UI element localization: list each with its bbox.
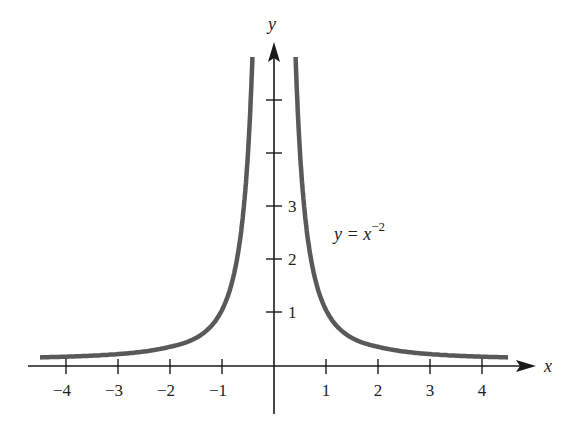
y-tick-label: 2	[288, 250, 297, 269]
x-tick-label: −3	[105, 381, 123, 400]
equation-label: y = x−2	[332, 219, 385, 244]
y-tick-label: 1	[288, 303, 297, 322]
y-axis-label: y	[266, 14, 276, 34]
x-axis-label: x	[543, 356, 552, 376]
curve-left-branch	[40, 57, 252, 357]
y-tick-label: 3	[288, 197, 297, 216]
x-tick-label: 2	[374, 381, 383, 400]
x-tick-label: 4	[478, 381, 487, 400]
x-tick-label: −1	[209, 381, 227, 400]
x-tick-label: 1	[322, 381, 331, 400]
chart-canvas: −4 −3 −2 −1 1 2 3 4 1 2 3 x y y = x−2	[0, 0, 571, 427]
x-tick-label: 3	[426, 381, 435, 400]
curve-right-branch	[296, 57, 508, 357]
x-tick-label: −2	[157, 381, 175, 400]
x-tick-label: −4	[53, 381, 72, 400]
